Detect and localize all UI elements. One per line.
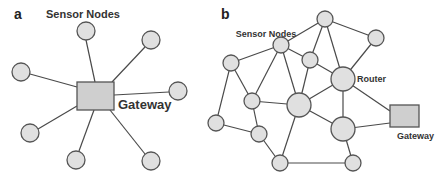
panel-a-sensor-node — [77, 22, 95, 40]
panel-b-router-node — [287, 93, 311, 117]
panel-a-sensor-node — [169, 82, 187, 100]
panel-b-sensor-node — [368, 30, 384, 46]
panel-a-letter: a — [14, 6, 22, 22]
panel-b-sensor-node — [345, 155, 361, 171]
panel-b-sensor-node — [208, 115, 224, 131]
panel-a-sensor-node — [21, 124, 39, 142]
panel-b-sensor-node — [251, 126, 267, 142]
panel-a-gateway-label: Gateway — [118, 97, 172, 112]
panel-b-sensor-node — [223, 55, 239, 71]
panel-b-sensor-nodes-label: Sensor Nodes — [236, 29, 297, 39]
panel-b-edges — [216, 19, 390, 163]
panel-b-router-label: Router — [357, 74, 386, 84]
panel-b-router-node — [331, 67, 355, 91]
panel-a-sensor-node — [67, 151, 85, 169]
panel-a-gateway — [77, 82, 114, 110]
panel-b-letter: b — [221, 6, 230, 22]
panel-b-sensor-node — [244, 93, 260, 109]
panel-b-sensor-node — [273, 37, 289, 53]
panel-a-star-topology: a Sensor Nodes Gateway — [12, 6, 187, 170]
panel-b-mesh-topology: b Sensor Nodes — [208, 6, 434, 171]
network-topology-figure: a Sensor Nodes Gateway b Sensor Nodes — [0, 0, 446, 185]
panel-a-sensor-node — [142, 152, 160, 170]
panel-b-sensor-node — [272, 155, 288, 171]
panel-b-sensor-node — [317, 11, 333, 27]
panel-b-gateway-label: Gateway — [397, 131, 434, 141]
panel-a-sensor-nodes-label: Sensor Nodes — [46, 8, 120, 20]
panel-b-sensor-node — [302, 52, 318, 68]
panel-b-gateway — [390, 105, 419, 127]
panel-b-router-node — [331, 117, 355, 141]
panel-a-sensor-node — [12, 63, 30, 81]
panel-a-sensor-node — [142, 31, 160, 49]
